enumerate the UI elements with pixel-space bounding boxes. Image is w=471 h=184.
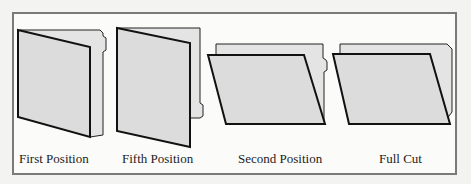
folder-full-cut-icon xyxy=(333,44,452,124)
caption-first-position: First Position xyxy=(19,151,89,167)
caption-fifth-position: Fifth Position xyxy=(122,151,193,167)
folder-first-position-icon xyxy=(18,30,106,137)
folder-front-panel xyxy=(117,28,190,147)
folder-fifth-position-icon xyxy=(117,28,203,147)
folder-second-position-icon xyxy=(208,44,327,124)
folder-front-panel xyxy=(333,54,450,124)
folder-front-panel xyxy=(18,30,90,137)
folder-front-panel xyxy=(208,55,325,124)
caption-full-cut: Full Cut xyxy=(379,151,422,167)
caption-second-position: Second Position xyxy=(238,151,322,167)
